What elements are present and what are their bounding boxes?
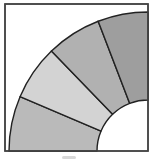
annulus-diagram: [0, 0, 150, 160]
caption-fragment: [62, 156, 76, 159]
